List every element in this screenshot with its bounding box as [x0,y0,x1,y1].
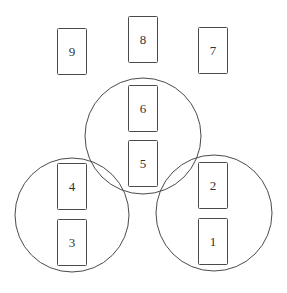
card-9: 9 [57,28,87,75]
card-5: 5 [128,140,158,187]
card-3: 3 [57,219,87,266]
card-6: 6 [128,85,158,132]
card-2: 2 [198,162,228,209]
card-7: 7 [198,27,228,74]
card-1: 1 [198,218,228,265]
card-8: 8 [128,16,158,63]
card-4: 4 [57,163,87,210]
